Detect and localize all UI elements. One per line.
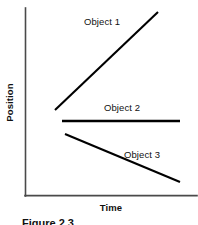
- object-3-line: [65, 134, 180, 182]
- object-1-label: Object 1: [84, 16, 120, 27]
- figure-caption: Figure 2.3: [22, 217, 74, 225]
- plot-area: [0, 0, 198, 225]
- object-2-label: Object 2: [104, 102, 140, 113]
- object-3-label: Object 3: [124, 149, 160, 160]
- position-time-figure: Object 1 Object 2 Object 3 Time Position…: [0, 0, 198, 225]
- x-axis-label-text: Time: [100, 202, 122, 213]
- y-axis-label: Position: [4, 67, 15, 139]
- x-axis-label: Time: [0, 202, 198, 213]
